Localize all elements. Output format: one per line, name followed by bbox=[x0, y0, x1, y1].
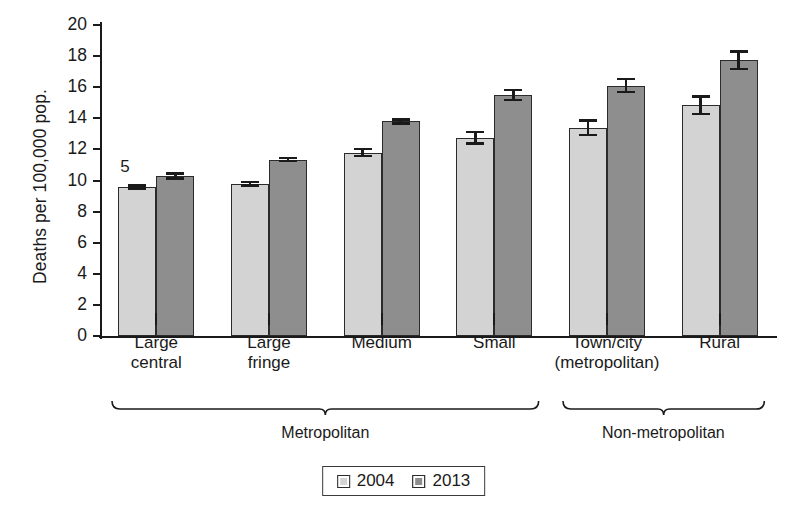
error-bar-cap-upper bbox=[692, 95, 710, 98]
y-tick-label: 4 bbox=[47, 263, 87, 284]
bar-2004 bbox=[231, 184, 269, 336]
y-tick-mark bbox=[93, 55, 101, 57]
y-tick-mark bbox=[93, 211, 101, 213]
y-tick-label: 20 bbox=[47, 14, 87, 35]
bar-2013 bbox=[494, 95, 532, 336]
x-tick-mark bbox=[155, 313, 157, 325]
bar-group bbox=[569, 25, 645, 336]
error-bar-cap-lower bbox=[392, 122, 410, 125]
x-tick-mark bbox=[268, 313, 270, 325]
y-tick-label: 8 bbox=[47, 201, 87, 222]
error-bar-cap-lower bbox=[692, 113, 710, 116]
y-tick-label: 14 bbox=[47, 107, 87, 128]
x-tick-mark bbox=[606, 313, 608, 325]
bar-2004 bbox=[456, 138, 494, 336]
group-bracket bbox=[110, 400, 541, 416]
error-bar-cap-upper bbox=[392, 118, 410, 121]
x-tick-mark bbox=[381, 313, 383, 325]
bar-2004 bbox=[569, 128, 607, 336]
x-tick-mark bbox=[719, 313, 721, 325]
legend-label-2004: 2004 bbox=[357, 471, 395, 491]
bar-2013 bbox=[269, 160, 307, 336]
x-tick-mark bbox=[493, 313, 495, 325]
error-bar-cap-upper bbox=[730, 50, 748, 53]
legend-label-2013: 2013 bbox=[433, 471, 471, 491]
plot-area: 02468101214161820 bbox=[100, 25, 776, 336]
x-axis-label: Rural bbox=[651, 333, 788, 353]
error-bar-cap-lower bbox=[504, 99, 522, 102]
y-tick-mark bbox=[93, 148, 101, 150]
y-tick-label: 18 bbox=[47, 45, 87, 66]
legend-item-2013: 2013 bbox=[413, 471, 471, 491]
bar-2004 bbox=[344, 153, 382, 336]
error-bar-cap-upper bbox=[354, 148, 372, 151]
group-bracket bbox=[561, 400, 766, 416]
error-bar-cap-upper bbox=[504, 89, 522, 92]
bar-chart: Deaths per 100,000 pop. 0246810121416182… bbox=[0, 0, 807, 512]
error-bar-cap-lower bbox=[279, 160, 297, 163]
legend-item-2004: 2004 bbox=[337, 471, 395, 491]
y-tick-label: 0 bbox=[47, 325, 87, 346]
y-tick-mark bbox=[93, 273, 101, 275]
group-bracket-label: Metropolitan bbox=[110, 424, 541, 442]
bar-group bbox=[231, 25, 307, 336]
bar-group bbox=[456, 25, 532, 336]
y-tick-mark bbox=[93, 180, 101, 182]
bar-group bbox=[344, 25, 420, 336]
error-bar-cap-lower bbox=[166, 177, 184, 180]
y-tick-mark bbox=[93, 24, 101, 26]
error-bar-cap-lower bbox=[466, 142, 484, 145]
footnote-marker: 5 bbox=[120, 157, 129, 177]
bar-group bbox=[118, 25, 194, 336]
y-tick-mark bbox=[93, 117, 101, 119]
error-bar-cap-lower bbox=[617, 91, 635, 94]
error-bar-cap-lower bbox=[354, 155, 372, 158]
y-tick-mark bbox=[93, 86, 101, 88]
bar-2004 bbox=[118, 187, 156, 336]
error-bar-cap-lower bbox=[730, 68, 748, 71]
legend-swatch-2004 bbox=[337, 475, 350, 488]
legend-swatch-2013 bbox=[413, 475, 426, 488]
error-bar-cap-upper bbox=[166, 172, 184, 175]
chart-legend: 2004 2013 bbox=[322, 466, 486, 496]
y-tick-label: 16 bbox=[47, 76, 87, 97]
y-tick-mark bbox=[93, 304, 101, 306]
y-tick-label: 2 bbox=[47, 294, 87, 315]
error-bar-cap-upper bbox=[579, 119, 597, 122]
error-bar-cap-upper bbox=[241, 181, 259, 184]
error-bar-cap-upper bbox=[466, 131, 484, 134]
bar-2013 bbox=[720, 60, 758, 336]
bar-2004 bbox=[682, 105, 720, 336]
bar-2013 bbox=[382, 121, 420, 336]
bar-2013 bbox=[607, 86, 645, 336]
y-tick-label: 6 bbox=[47, 232, 87, 253]
error-bar-cap-lower bbox=[128, 187, 146, 190]
error-bar-cap-lower bbox=[579, 134, 597, 137]
y-tick-label: 10 bbox=[47, 170, 87, 191]
error-bar-cap-upper bbox=[617, 78, 635, 81]
y-tick-mark bbox=[93, 242, 101, 244]
group-bracket-label: Non-metropolitan bbox=[561, 424, 766, 442]
error-bar-cap-lower bbox=[241, 184, 259, 187]
bar-2013 bbox=[156, 176, 194, 336]
y-tick-label: 12 bbox=[47, 138, 87, 159]
bar-group bbox=[682, 25, 758, 336]
